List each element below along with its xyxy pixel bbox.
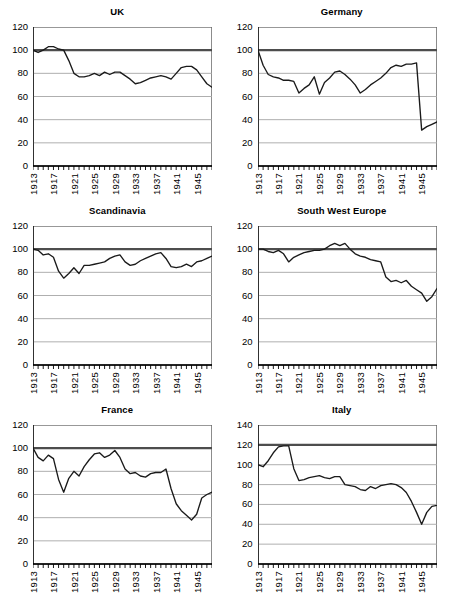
x-axis-label: 1933 <box>130 372 141 394</box>
y-axis-label: 120 <box>225 221 253 230</box>
y-axis-label: 20 <box>0 536 28 545</box>
plot-svg <box>33 27 212 172</box>
y-axis-label: 60 <box>225 92 253 101</box>
x-axis-label: 1925 <box>89 571 100 593</box>
y-axis-label: 60 <box>0 92 28 101</box>
x-axis-label: 1921 <box>69 571 80 593</box>
y-axis-label: 100 <box>225 460 253 469</box>
x-axis-label: 1937 <box>375 173 386 195</box>
y-axis-label: 40 <box>225 115 253 124</box>
y-axis-label: 40 <box>225 314 253 323</box>
x-axis-label: 1941 <box>171 571 182 593</box>
x-axis-label: 1917 <box>273 571 284 593</box>
x-axis-label: 1925 <box>89 372 100 394</box>
x-axis-label: 1917 <box>273 173 284 195</box>
y-axis-label: 100 <box>225 45 253 54</box>
x-axis-label: 1925 <box>314 571 325 593</box>
y-axis-label: 20 <box>225 337 253 346</box>
y-axis-label: 40 <box>225 519 253 528</box>
x-axis-label: 1921 <box>293 571 304 593</box>
x-axis-label: 1929 <box>334 372 345 394</box>
x-axis-label: 1937 <box>375 571 386 593</box>
y-axis-label: 100 <box>0 443 28 452</box>
x-axis-label: 1925 <box>314 173 325 195</box>
x-axis-label: 1929 <box>110 571 121 593</box>
x-axis-label: 1941 <box>396 173 407 195</box>
x-axis-label: 1941 <box>171 372 182 394</box>
y-axis-label: 120 <box>225 22 253 31</box>
y-axis-label: 120 <box>225 440 253 449</box>
y-axis-label: 0 <box>0 559 28 568</box>
plot-svg <box>33 226 212 371</box>
y-axis-label: 20 <box>225 138 253 147</box>
x-axis-label: 1945 <box>416 571 427 593</box>
x-axis-label: 1933 <box>355 571 366 593</box>
y-axis-label: 100 <box>225 244 253 253</box>
plot-svg <box>258 425 437 570</box>
plot-area <box>258 27 437 166</box>
plot-svg <box>258 27 437 172</box>
x-axis-label: 1945 <box>192 372 203 394</box>
x-axis-label: 1913 <box>28 173 39 195</box>
y-axis-label: 60 <box>0 490 28 499</box>
x-axis-label: 1921 <box>293 372 304 394</box>
chart-title: Germany <box>225 6 449 17</box>
y-axis-label: 20 <box>225 539 253 548</box>
x-axis-label: 1913 <box>28 372 39 394</box>
x-axis-label: 1945 <box>192 571 203 593</box>
x-axis-label: 1913 <box>253 173 264 195</box>
x-axis-label: 1925 <box>89 173 100 195</box>
x-axis-label: 1945 <box>416 372 427 394</box>
x-axis-label: 1917 <box>273 372 284 394</box>
y-axis-label: 60 <box>225 291 253 300</box>
plot-svg <box>258 226 437 371</box>
plot-area <box>258 425 437 564</box>
x-axis-label: 1933 <box>130 173 141 195</box>
y-axis-label: 80 <box>0 466 28 475</box>
x-axis-label: 1937 <box>151 372 162 394</box>
x-axis-label: 1921 <box>293 173 304 195</box>
x-axis-label: 1933 <box>130 571 141 593</box>
y-axis-label: 120 <box>0 22 28 31</box>
plot-area <box>33 425 212 564</box>
y-axis-label: 140 <box>225 420 253 429</box>
x-axis-label: 1941 <box>171 173 182 195</box>
y-axis-label: 80 <box>225 267 253 276</box>
y-axis-label: 80 <box>0 68 28 77</box>
x-axis-label: 1913 <box>28 571 39 593</box>
x-axis-label: 1929 <box>334 571 345 593</box>
chart-title: Scandinavia <box>0 205 225 216</box>
x-axis-label: 1917 <box>48 173 59 195</box>
x-axis-label: 1921 <box>69 372 80 394</box>
plot-svg <box>33 425 212 570</box>
x-axis-label: 1917 <box>48 372 59 394</box>
y-axis-label: 60 <box>225 499 253 508</box>
x-axis-label: 1945 <box>192 173 203 195</box>
x-axis-label: 1941 <box>396 571 407 593</box>
y-axis-label: 100 <box>0 45 28 54</box>
y-axis-label: 60 <box>0 291 28 300</box>
y-axis-label: 40 <box>0 115 28 124</box>
chart-panel-uk: UK02040608010012019131917192119251929193… <box>0 0 225 199</box>
y-axis-label: 80 <box>225 68 253 77</box>
plot-area <box>33 27 212 166</box>
x-axis-label: 1925 <box>314 372 325 394</box>
x-axis-label: 1913 <box>253 372 264 394</box>
x-axis-label: 1913 <box>253 571 264 593</box>
y-axis-label: 40 <box>0 314 28 323</box>
y-axis-label: 40 <box>0 513 28 522</box>
y-axis-label: 80 <box>225 480 253 489</box>
chart-panel-italy: Italy02040608010012014019131917192119251… <box>225 398 449 598</box>
y-axis-label: 120 <box>0 420 28 429</box>
chart-grid: UK02040608010012019131917192119251929193… <box>0 0 449 598</box>
plot-area <box>33 226 212 365</box>
y-axis-label: 0 <box>225 360 253 369</box>
x-axis-label: 1917 <box>48 571 59 593</box>
x-axis-label: 1929 <box>110 173 121 195</box>
x-axis-label: 1937 <box>375 372 386 394</box>
y-axis-label: 0 <box>225 161 253 170</box>
x-axis-label: 1937 <box>151 571 162 593</box>
x-axis-label: 1933 <box>355 173 366 195</box>
x-axis-label: 1929 <box>334 173 345 195</box>
y-axis-label: 120 <box>0 221 28 230</box>
